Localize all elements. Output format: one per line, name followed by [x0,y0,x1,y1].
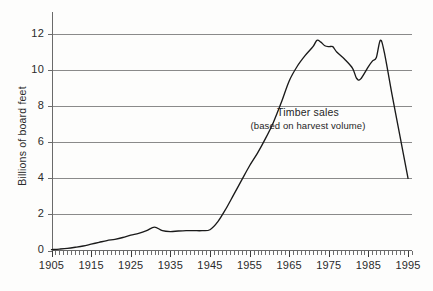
x-tick-label-1955: 1955 [230,259,270,271]
x-tick-label-1905: 1905 [32,259,72,271]
series-annotation: Timber sales (based on harvest volume) [228,106,388,132]
x-tick-label-1985: 1985 [348,259,388,271]
x-tick-label-1975: 1975 [309,259,349,271]
x-tick-label-1995: 1995 [388,259,428,271]
y-tick-label-8: 8 [14,99,44,111]
y-tick-label-2: 2 [14,207,44,219]
x-tick-label-1925: 1925 [111,259,151,271]
timber-sales-chart: Billions of board feet Timber sales (bas… [0,0,433,291]
data-series-0 [52,40,409,249]
annotation-subtitle: (based on harvest volume) [228,119,388,132]
chart-plot-area [0,0,433,291]
annotation-title: Timber sales [228,106,388,119]
y-tick-label-6: 6 [14,135,44,147]
x-tick-label-1935: 1935 [150,259,190,271]
x-tick-label-1945: 1945 [190,259,230,271]
y-tick-label-12: 12 [14,27,44,39]
y-tick-label-10: 10 [14,63,44,75]
y-tick-label-0: 0 [14,243,44,255]
x-tick-label-1965: 1965 [269,259,309,271]
y-tick-label-4: 4 [14,171,44,183]
x-tick-label-1915: 1915 [71,259,111,271]
